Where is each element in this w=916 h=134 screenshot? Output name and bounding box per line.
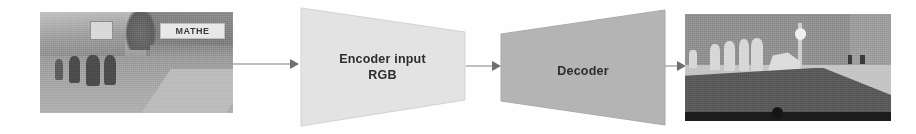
arrow-input-to-encoder — [233, 59, 299, 69]
encoder-block: Encoder input RGB — [299, 6, 466, 128]
diagram-canvas: MATHE Encoder input RGB Decoder — [0, 0, 916, 134]
encoder-label-line2: RGB — [299, 67, 466, 83]
arrow-head-icon — [290, 59, 299, 69]
output-segmentation-image — [685, 14, 891, 121]
output-image-grain — [685, 14, 891, 121]
arrow-line — [466, 66, 493, 67]
input-image-grain — [40, 12, 233, 113]
encoder-label-line1: Encoder input — [299, 51, 466, 67]
arrow-encoder-to-decoder — [466, 61, 501, 71]
arrow-decoder-to-output — [665, 61, 686, 71]
input-image: MATHE — [40, 12, 233, 113]
arrow-line — [233, 64, 291, 65]
decoder-label-line1: Decoder — [500, 63, 666, 79]
decoder-block: Decoder — [500, 6, 666, 128]
decoder-label: Decoder — [500, 63, 666, 79]
encoder-label: Encoder input RGB — [299, 51, 466, 83]
